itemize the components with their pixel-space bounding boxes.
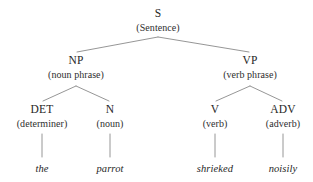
node-n-label: N bbox=[97, 104, 124, 116]
node-vp-label: VP bbox=[223, 55, 277, 67]
node-det-gloss: (determiner) bbox=[17, 119, 68, 129]
node-adv: ADV (adverb) bbox=[266, 104, 300, 129]
node-np-label: NP bbox=[48, 55, 104, 67]
node-v: V (verb) bbox=[203, 104, 228, 129]
edge-np-to-det bbox=[43, 86, 76, 101]
leaf-word-the: the bbox=[35, 163, 48, 174]
node-np-gloss: (noun phrase) bbox=[48, 70, 104, 80]
node-n: N (noun) bbox=[97, 104, 124, 129]
node-np: NP (noun phrase) bbox=[48, 55, 104, 80]
node-adv-gloss: (adverb) bbox=[266, 119, 300, 129]
node-det-label: DET bbox=[17, 104, 68, 116]
leaf-word-parrot: parrot bbox=[96, 163, 123, 174]
leaf-word-shrieked: shrieked bbox=[197, 163, 233, 174]
node-s-gloss: (Sentence) bbox=[136, 23, 179, 33]
node-vp-gloss: (verb phrase) bbox=[223, 70, 277, 80]
edge-s-to-np bbox=[77, 37, 158, 52]
syntax-tree-diagram: S (Sentence) NP (noun phrase) VP (verb p… bbox=[0, 0, 313, 182]
node-v-label: V bbox=[203, 104, 228, 116]
node-s-label: S bbox=[136, 8, 179, 20]
node-s: S (Sentence) bbox=[136, 8, 179, 33]
edge-s-to-vp bbox=[158, 37, 249, 52]
node-det: DET (determiner) bbox=[17, 104, 68, 129]
node-v-gloss: (verb) bbox=[203, 119, 228, 129]
node-vp: VP (verb phrase) bbox=[223, 55, 277, 80]
edge-vp-to-adv bbox=[250, 86, 282, 101]
node-adv-label: ADV bbox=[266, 104, 300, 116]
edge-vp-to-v bbox=[216, 86, 250, 101]
edge-np-to-n bbox=[76, 86, 109, 101]
leaf-word-noisily: noisily bbox=[269, 163, 298, 174]
node-n-gloss: (noun) bbox=[97, 119, 124, 129]
